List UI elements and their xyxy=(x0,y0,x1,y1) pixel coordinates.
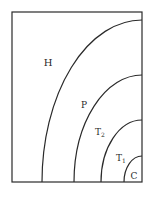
zone-boundaries xyxy=(42,20,142,182)
region-label-c: C xyxy=(131,171,138,181)
region-label-t2: T2 xyxy=(95,127,105,138)
nested-zones-diagram: H P T2 T1 C xyxy=(0,0,151,199)
region-label-h: H xyxy=(44,57,53,68)
region-label-t1: T1 xyxy=(116,153,126,164)
zone-labels: H P T2 T1 C xyxy=(44,57,138,181)
boundary-h-p xyxy=(42,20,142,182)
region-label-p: P xyxy=(81,100,87,110)
boundary-p-t2 xyxy=(74,75,142,182)
